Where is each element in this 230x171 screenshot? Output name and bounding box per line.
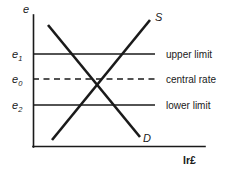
y-axis-label: e <box>23 3 29 15</box>
demand-curve-label: D <box>143 132 151 144</box>
y-tick-e0: e0 <box>12 73 23 88</box>
supply-curve-label: S <box>155 11 163 23</box>
y-tick-e1: e1 <box>12 48 22 63</box>
upper-limit-label: upper limit <box>166 49 212 60</box>
demand-curve <box>48 25 140 137</box>
y-tick-e2: e2 <box>12 99 23 114</box>
supply-curve <box>52 20 150 140</box>
y-tick-e2-sub: 2 <box>17 105 23 114</box>
central-rate-label: central rate <box>166 74 216 85</box>
y-tick-e0-sub: 0 <box>18 79 23 88</box>
exchange-rate-band-diagram: e e1 e0 e2 S D upper limit central rate … <box>0 0 230 171</box>
x-axis-label: Ir£ <box>183 154 196 166</box>
y-tick-e1-sub: 1 <box>18 54 22 63</box>
diagram-canvas: e e1 e0 e2 S D upper limit central rate … <box>0 0 230 171</box>
lower-limit-label: lower limit <box>166 100 211 111</box>
